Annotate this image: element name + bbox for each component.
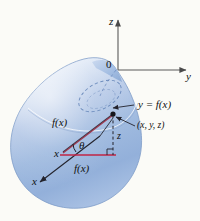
height-label: z: [117, 131, 121, 141]
math-figure: z y 0 y = f(x) (x, y, z) f(x) f(x) θ z x…: [0, 0, 200, 221]
x-axis-label: x: [32, 176, 37, 187]
y-axis-label: y: [186, 71, 191, 82]
radius-label-upper: f(x): [52, 117, 67, 128]
surface-equation-label: y = f(x): [138, 99, 171, 110]
origin-label: 0: [106, 59, 112, 70]
point-coordinates-label: (x, y, z): [137, 121, 164, 131]
solid-sheen: [11, 58, 142, 209]
x-inner-label: x: [54, 148, 59, 159]
figure-canvas: [0, 0, 200, 221]
solid-of-revolution-body: [11, 58, 142, 209]
theta-angle-label: θ: [79, 140, 84, 151]
point-marker: [110, 111, 115, 116]
radius-label-lower: f(x): [74, 163, 89, 174]
z-axis-label: z: [109, 16, 113, 27]
